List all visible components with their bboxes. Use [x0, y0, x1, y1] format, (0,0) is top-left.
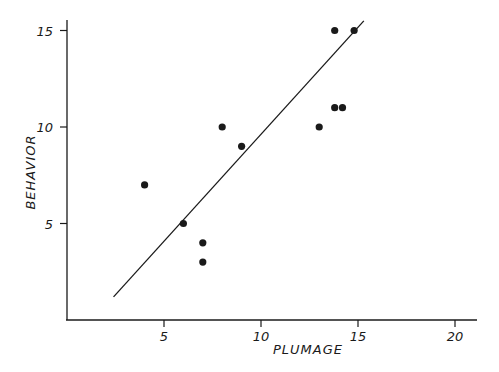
data-point [180, 220, 187, 227]
x-tick-label: 5 [160, 329, 168, 344]
x-tick: 15 [350, 320, 367, 344]
data-point [199, 239, 206, 246]
y-tick: 5 [45, 217, 67, 232]
data-point [219, 123, 226, 130]
y-tick: 10 [36, 120, 67, 135]
scatter-chart: 51015 5101520 PLUMAGE BEHAVIOR [0, 0, 499, 372]
x-tick-label: 10 [253, 329, 270, 344]
regression-line [114, 21, 364, 297]
y-axis-label: BEHAVIOR [23, 134, 38, 209]
data-point [141, 181, 148, 188]
y-tick-label: 5 [45, 217, 53, 232]
x-tick-label: 15 [350, 329, 367, 344]
x-tick: 20 [447, 320, 464, 344]
x-tick: 10 [253, 320, 270, 344]
data-point [331, 104, 338, 111]
data-point [316, 123, 323, 130]
y-ticks: 51015 [36, 24, 67, 232]
data-point [351, 27, 358, 34]
data-point [238, 143, 245, 150]
x-axis-label: PLUMAGE [273, 342, 343, 357]
data-point [199, 259, 206, 266]
data-point [331, 27, 338, 34]
data-point [339, 104, 346, 111]
x-tick: 5 [160, 320, 168, 344]
x-ticks: 5101520 [160, 320, 463, 344]
y-tick: 15 [36, 24, 67, 39]
y-tick-label: 15 [36, 24, 53, 39]
x-tick-label: 20 [447, 329, 464, 344]
y-tick-label: 10 [36, 120, 53, 135]
